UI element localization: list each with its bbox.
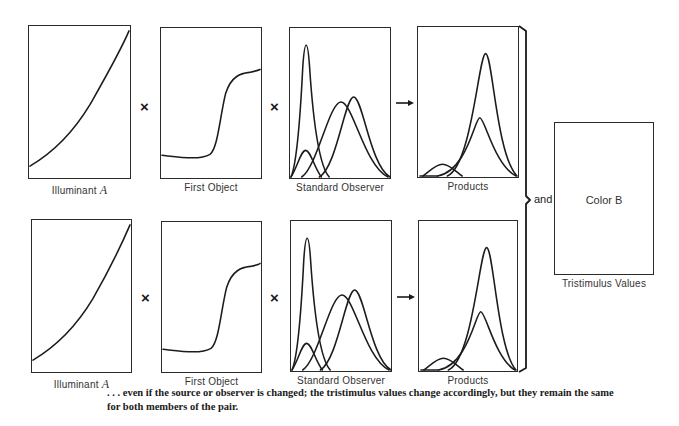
multiply-operator: × — [141, 290, 150, 305]
yields-arrow — [397, 293, 417, 301]
illuminant-label-row1: Illuminant A — [28, 183, 131, 198]
multiply-operator: × — [270, 290, 279, 305]
observer-label-row2: Standard Observer — [290, 375, 392, 386]
multiply-operator: × — [140, 99, 149, 114]
illuminant-panel-row2 — [31, 219, 132, 373]
yields-arrow — [396, 99, 416, 107]
color-matching-curves — [291, 221, 391, 371]
object-panel-row1 — [160, 27, 262, 179]
products-panel-row1 — [417, 26, 519, 178]
illuminant-curve — [32, 220, 131, 372]
color-b-panel: Color B — [554, 122, 654, 275]
illuminant-panel-row1 — [28, 25, 131, 179]
product-curves — [419, 221, 517, 371]
and-joiner: and — [534, 193, 552, 205]
color-b-text: Color B — [555, 194, 653, 206]
figure-caption: . . . even if the source or observer is … — [107, 386, 627, 414]
product-curves — [418, 27, 518, 177]
color-matching-curves — [290, 28, 390, 178]
tristimulus-values-label: Tristimulus Values — [554, 278, 654, 289]
reflectance-curve — [161, 28, 261, 178]
object-panel-row2 — [161, 221, 262, 373]
curly-brace — [518, 24, 534, 374]
products-panel-row2 — [418, 220, 518, 372]
observer-panel-row2 — [290, 220, 392, 372]
products-label-row2: Products — [418, 375, 518, 386]
products-label-row1: Products — [417, 181, 519, 192]
observer-panel-row1 — [289, 27, 391, 179]
object-label-row1: First Object — [160, 182, 262, 193]
observer-label-row1: Standard Observer — [289, 182, 391, 193]
reflectance-curve — [162, 222, 261, 372]
multiply-operator: × — [270, 99, 279, 114]
illuminant-curve — [29, 26, 130, 178]
